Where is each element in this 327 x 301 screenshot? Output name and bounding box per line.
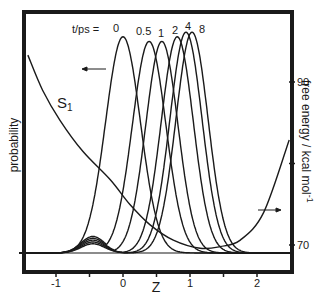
probability-curve-t0_5 — [19, 41, 292, 253]
chart: -1012 Z 7090 probability free energy / k… — [0, 0, 327, 301]
x-tick-label: -1 — [51, 277, 61, 289]
legend-title: t/ps = — [72, 23, 99, 35]
probability-curves — [19, 32, 292, 253]
peak-label: 8 — [199, 23, 205, 35]
x-axis-label: Z — [152, 279, 161, 295]
right-arrow-icon — [258, 208, 281, 212]
x-tick-label: 2 — [254, 277, 260, 289]
probability-curve-t2 — [19, 37, 292, 253]
right-axis-label: free energy / kcal mol-1 — [299, 80, 315, 203]
probability-curve-t0 — [19, 37, 292, 253]
left-axis-label: probability — [7, 118, 21, 173]
probability-curve-t1 — [19, 41, 292, 253]
probability-curve-t8 — [19, 32, 292, 253]
peak-label: 2 — [172, 24, 178, 36]
x-tick-label: 0 — [120, 277, 126, 289]
peak-label: 0.5 — [136, 25, 151, 37]
peak-labels: 00.51248 — [113, 20, 205, 39]
y-tick-label: 70 — [297, 239, 309, 251]
left-arrow-icon — [82, 67, 106, 71]
x-tick-label: 1 — [187, 277, 193, 289]
free-energy-curve — [28, 55, 289, 249]
s1-label: S1 — [57, 94, 73, 113]
peak-label: 1 — [158, 27, 164, 39]
peak-label: 0 — [113, 22, 119, 34]
probability-curve-t4 — [19, 32, 292, 253]
peak-label: 4 — [185, 20, 191, 32]
